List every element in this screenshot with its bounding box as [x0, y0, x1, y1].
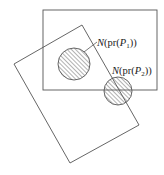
- hatched-circle-p2: [104, 77, 132, 105]
- label-p2: N(pr(P2)): [111, 65, 152, 78]
- diagram-canvas: N(pr(P1)) N(pr(P2)): [0, 0, 164, 175]
- hatched-circle-p1: [58, 48, 90, 80]
- axis-aligned-rectangle: [43, 10, 157, 90]
- label-p1: N(pr(P1)): [96, 37, 137, 50]
